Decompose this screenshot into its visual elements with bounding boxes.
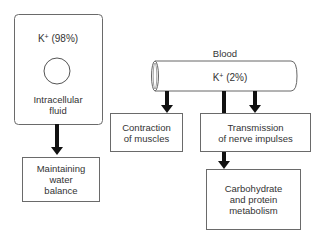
arrow-blood-to-muscle-contraction bbox=[161, 91, 173, 113]
blood-title: Blood bbox=[195, 48, 255, 59]
arrow-nerve-transmission-to-metabolism bbox=[218, 151, 230, 169]
blood-percent: (2%) bbox=[226, 72, 247, 83]
label-line: Transmission bbox=[218, 122, 292, 133]
label-line: metabolism bbox=[225, 205, 283, 216]
connector-blood-to-nerve-transmission bbox=[222, 91, 226, 113]
label-line: of nerve impulses bbox=[218, 133, 292, 144]
ion-symbol: K bbox=[38, 33, 45, 44]
label-line: Carbohydrate bbox=[225, 183, 283, 194]
intracellular-potassium-label: K+ (98%) bbox=[14, 31, 102, 44]
label-line: and protein bbox=[225, 194, 283, 205]
blood-potassium-label: K+ (2%) bbox=[195, 70, 265, 83]
label-line: Intracellular bbox=[14, 94, 102, 105]
ion-charge: + bbox=[45, 33, 49, 40]
muscle-contraction-box: Contraction of muscles bbox=[110, 113, 183, 152]
arrow-blood-to-nerve-transmission bbox=[249, 91, 261, 113]
intracellular-fluid-label: Intracellular fluid bbox=[14, 94, 102, 116]
label-line: Maintaining bbox=[37, 163, 86, 174]
intracellular-percent: (98%) bbox=[51, 33, 78, 44]
metabolism-box: Carbohydrate and protein metabolism bbox=[206, 169, 301, 230]
label-line: water bbox=[37, 174, 86, 185]
ion-charge: + bbox=[219, 72, 223, 79]
label-line: fluid bbox=[14, 105, 102, 116]
label-line: of muscles bbox=[122, 133, 171, 144]
label-line: Contraction bbox=[122, 122, 171, 133]
nerve-transmission-box: Transmission of nerve impulses bbox=[200, 113, 311, 152]
label-line: balance bbox=[37, 185, 86, 196]
water-balance-box: Maintaining water balance bbox=[22, 157, 100, 202]
arrow-intracellular-to-water-balance bbox=[51, 124, 63, 155]
